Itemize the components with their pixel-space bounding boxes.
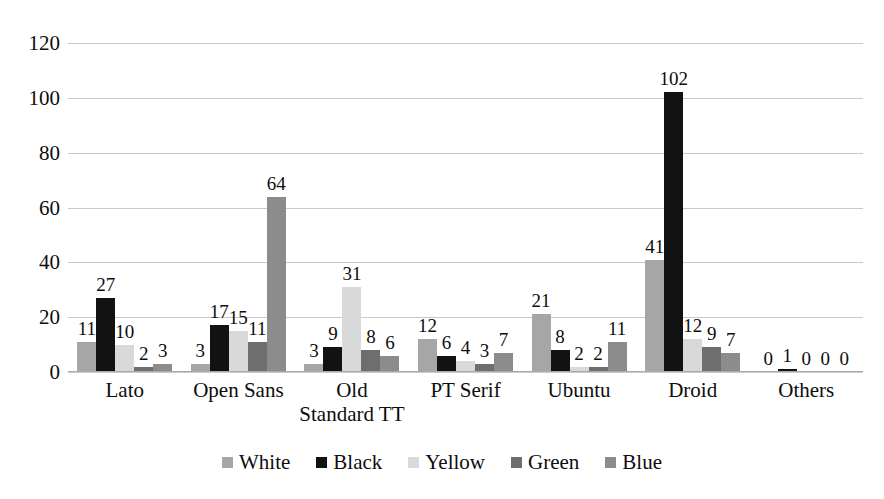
- y-axis-tick-label: 120: [8, 33, 60, 54]
- bar-slot: 0: [759, 43, 778, 372]
- bar[interactable]: [115, 345, 134, 372]
- bar-group-bars: 01000: [749, 43, 863, 372]
- bar-value-label: 9: [328, 324, 338, 343]
- bar[interactable]: [323, 347, 342, 372]
- x-axis-label: Lato: [68, 378, 182, 426]
- legend-label: White: [239, 452, 290, 473]
- bar-value-label: 9: [707, 324, 717, 343]
- x-axis-label: Droid: [636, 378, 750, 426]
- bar-value-label: 10: [115, 322, 134, 341]
- y-axis-tick-label: 60: [8, 197, 60, 218]
- legend-label: Green: [528, 452, 579, 473]
- bar-value-label: 6: [385, 333, 395, 352]
- y-axis-tick-label: 100: [8, 87, 60, 108]
- legend-swatch-icon: [511, 457, 522, 468]
- bar-slot: 7: [494, 43, 513, 372]
- bar-slot: 3: [191, 43, 210, 372]
- bar-slot: 21: [532, 43, 551, 372]
- bar[interactable]: [342, 287, 361, 372]
- legend-swatch-icon: [316, 457, 327, 468]
- legend-item[interactable]: Black: [316, 452, 382, 473]
- bar-slot: 11: [77, 43, 96, 372]
- bar-value-label: 0: [802, 349, 812, 368]
- bar-group-bars: 126437: [409, 43, 523, 372]
- bar-group-bars: 11271023: [68, 43, 182, 372]
- y-axis-tick-label: 80: [8, 142, 60, 163]
- bar-value-label: 64: [267, 174, 286, 193]
- bar-group: 411021297: [636, 43, 750, 372]
- bar-value-label: 11: [248, 319, 266, 338]
- x-axis-label: Open Sans: [182, 378, 296, 426]
- bar[interactable]: [645, 260, 664, 372]
- bar-slot: 3: [475, 43, 494, 372]
- bar-slot: 3: [153, 43, 172, 372]
- bar-group: 01000: [749, 43, 863, 372]
- legend-item[interactable]: Green: [511, 452, 579, 473]
- bar-value-label: 1: [783, 346, 793, 365]
- bar-slot: 2: [570, 43, 589, 372]
- bar[interactable]: [418, 339, 437, 372]
- bar-group-bars: 2182211: [522, 43, 636, 372]
- bar-slot: 27: [96, 43, 115, 372]
- bar-value-label: 8: [555, 327, 565, 346]
- bar-slot: 31: [342, 43, 361, 372]
- bar-slot: 12: [683, 43, 702, 372]
- bar[interactable]: [96, 298, 115, 372]
- bar[interactable]: [664, 92, 683, 372]
- y-axis-tick-label: 0: [8, 362, 60, 383]
- bar-slot: 8: [551, 43, 570, 372]
- bar-value-label: 11: [78, 319, 96, 338]
- bar[interactable]: [608, 342, 627, 372]
- bar[interactable]: [229, 331, 248, 372]
- bar-slot: 1: [778, 43, 797, 372]
- bar[interactable]: [437, 356, 456, 372]
- bar-slot: 2: [134, 43, 153, 372]
- x-axis-label: Others: [749, 378, 863, 426]
- legend-item[interactable]: White: [222, 452, 290, 473]
- bar[interactable]: [551, 350, 570, 372]
- bar-slot: 7: [721, 43, 740, 372]
- bar-value-label: 7: [726, 330, 736, 349]
- bar-slot: 41: [645, 43, 664, 372]
- legend-label: Blue: [622, 452, 662, 473]
- bar-slot: 15: [229, 43, 248, 372]
- bar[interactable]: [267, 197, 286, 372]
- bar-value-label: 31: [342, 264, 361, 283]
- bar-group: 2182211: [522, 43, 636, 372]
- bar-value-label: 12: [418, 316, 437, 335]
- bar-value-label: 2: [139, 344, 149, 363]
- bar-value-label: 17: [210, 302, 229, 321]
- bar[interactable]: [683, 339, 702, 372]
- bar-value-label: 0: [764, 349, 774, 368]
- legend-swatch-icon: [408, 457, 419, 468]
- bar[interactable]: [210, 325, 229, 372]
- bar-slot: 8: [361, 43, 380, 372]
- bar[interactable]: [532, 314, 551, 372]
- gridline: [68, 372, 863, 373]
- bar-value-label: 12: [683, 316, 702, 335]
- bar[interactable]: [248, 342, 267, 372]
- bar-group: 11271023: [68, 43, 182, 372]
- bar-slot: 102: [664, 43, 683, 372]
- bar[interactable]: [380, 356, 399, 372]
- bar-slot: 6: [380, 43, 399, 372]
- bar[interactable]: [702, 347, 721, 372]
- bar-value-label: 0: [840, 349, 850, 368]
- bar[interactable]: [77, 342, 96, 372]
- bar-slot: 2: [589, 43, 608, 372]
- bar-value-label: 41: [645, 237, 664, 256]
- bar-value-label: 6: [442, 333, 452, 352]
- bar-slot: 11: [248, 43, 267, 372]
- bar-slot: 10: [115, 43, 134, 372]
- bar-value-label: 2: [593, 344, 603, 363]
- legend-item[interactable]: Yellow: [408, 452, 485, 473]
- legend-item[interactable]: Blue: [605, 452, 662, 473]
- legend-swatch-icon: [222, 457, 233, 468]
- x-axis-labels: LatoOpen SansOld Standard TTPT SerifUbun…: [68, 378, 863, 426]
- bar[interactable]: [721, 353, 740, 372]
- bar-group: 317151164: [182, 43, 296, 372]
- bar-slot: 4: [456, 43, 475, 372]
- bar-value-label: 15: [229, 308, 248, 327]
- bar[interactable]: [361, 350, 380, 372]
- bar[interactable]: [494, 353, 513, 372]
